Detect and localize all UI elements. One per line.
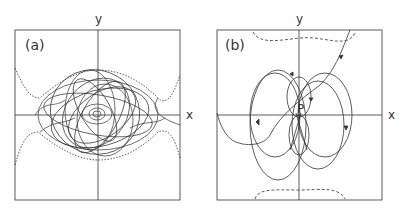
panel-a-y-label: y <box>95 12 102 26</box>
point-p-label: P <box>297 102 304 116</box>
boundary-lower <box>255 189 345 199</box>
panel-b-x-label: x <box>388 108 395 122</box>
boundary-upper <box>253 32 355 41</box>
panel-a: (a) y x <box>15 12 193 200</box>
panel-a-label: (a) <box>25 37 45 53</box>
figure: (a) y x (b) y x P <box>0 0 404 208</box>
panel-b-label: (b) <box>225 37 245 53</box>
panel-b-y-label: y <box>296 12 303 26</box>
panel-a-x-label: x <box>186 108 193 122</box>
chaotic-trajectory <box>35 57 180 167</box>
panel-b: (b) y x P <box>217 12 395 200</box>
separatrix-upper <box>15 68 180 101</box>
